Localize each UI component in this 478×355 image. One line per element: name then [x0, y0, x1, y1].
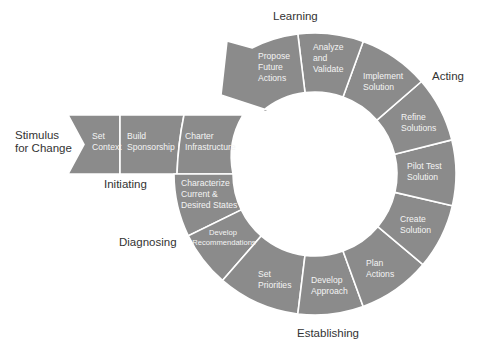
phase-stimulus-for-change: Stimulus for Change — [15, 129, 72, 154]
phase-acting: Acting — [432, 70, 464, 82]
label-create-solution: Create Solution — [400, 214, 431, 235]
phase-diagnosing: Diagnosing — [119, 236, 177, 248]
label-develop-approach: Develop Approach — [311, 275, 348, 296]
phase-learning: Learning — [273, 10, 318, 22]
idealm-cycle-diagram: Set Context Build Sponsorship Charter In… — [0, 0, 478, 355]
phase-establishing: Establishing — [297, 327, 359, 339]
phase-initiating: Initiating — [104, 178, 147, 190]
